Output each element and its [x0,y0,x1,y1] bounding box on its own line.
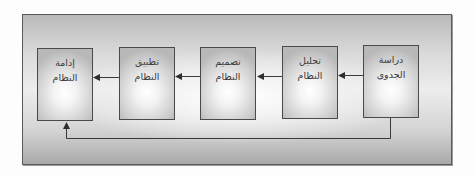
stage-label-line2: النظام [298,70,323,81]
stage-label-line1: تصميم [215,56,241,67]
stage-box-analysis: تحليلالنظام [282,46,338,119]
stage-label-maintenance: إدامةالنظام [38,55,92,85]
diagram-canvas: إدامةالنظام تطبيقالنظام تصميمالنظام تحلي… [0,0,475,175]
stage-label-feasibility: دراسةالجدوى [364,52,418,82]
stage-label-implementation: تطبيقالنظام [120,54,174,84]
stage-label-line2: النظام [135,71,160,82]
stage-label-line1: تحليل [299,55,321,66]
stage-label-line1: دراسة [379,54,404,65]
stage-label-design: تصميمالنظام [201,54,255,84]
stage-box-design: تصميمالنظام [200,47,256,120]
stage-box-feasibility: دراسةالجدوى [363,45,419,118]
stage-box-maintenance: إدامةالنظام [37,48,93,121]
stage-label-analysis: تحليلالنظام [283,53,337,83]
stage-label-line2: الجدوى [377,69,406,80]
stage-box-implementation: تطبيقالنظام [119,47,175,120]
stage-label-line2: النظام [216,71,241,82]
stage-label-line1: إدامة [55,57,75,68]
stage-label-line2: النظام [53,72,78,83]
stage-label-line1: تطبيق [135,56,159,67]
